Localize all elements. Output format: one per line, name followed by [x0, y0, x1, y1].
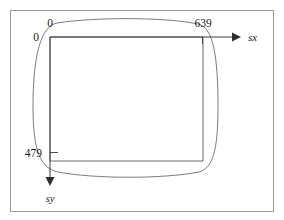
- label-max-x: 639: [194, 17, 212, 29]
- label-axis-sx: sx: [248, 31, 257, 43]
- label-origin-x: 0: [47, 17, 53, 29]
- label-axis-sy: sy: [45, 192, 54, 204]
- label-origin-y: 0: [33, 31, 39, 43]
- label-max-y: 479: [25, 147, 43, 159]
- screen-coordinate-diagram: 0 0 639 479 sx sy: [0, 0, 284, 220]
- diagram-canvas: 0 0 639 479 sx sy: [0, 0, 284, 220]
